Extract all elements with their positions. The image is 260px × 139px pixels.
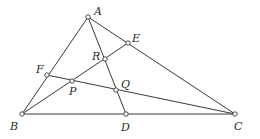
point-c [233,112,237,116]
label-e: E [131,32,140,45]
label-d: D [120,121,130,134]
point-f [45,73,49,77]
segments [22,17,235,114]
point-q [114,88,118,92]
geometry-diagram: A B C D E F P Q R [0,0,260,139]
label-f: F [35,63,44,76]
point-b [20,112,24,116]
label-a: A [93,5,102,18]
label-r: R [91,50,100,63]
label-p: P [68,85,77,98]
point-r [103,57,107,61]
segment-ac [88,17,235,114]
point-e [126,41,130,45]
points [20,15,237,116]
segment-ab [22,17,88,114]
label-q: Q [121,78,130,91]
point-p [70,79,74,83]
label-b: B [9,120,18,133]
label-c: C [234,120,243,133]
point-d [124,112,128,116]
point-a [86,15,90,19]
